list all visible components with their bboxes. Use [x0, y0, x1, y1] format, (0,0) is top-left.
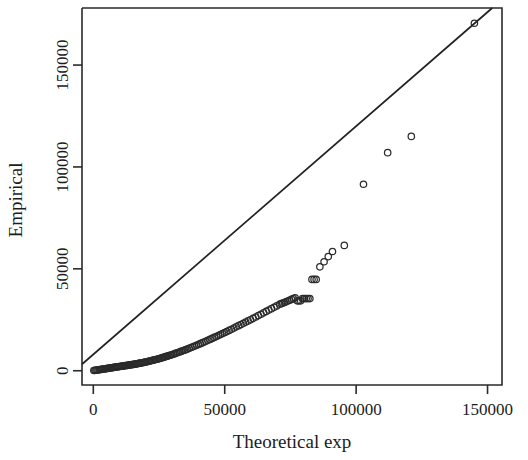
x-tick-label: 150000 [462, 400, 513, 419]
x-tick-label: 100000 [331, 400, 382, 419]
plot-background [0, 0, 528, 460]
qq-plot-figure: 050000100000150000 050000100000150000 Th… [0, 0, 528, 460]
qq-plot-canvas: 050000100000150000 050000100000150000 Th… [0, 0, 528, 460]
x-tick-label: 0 [89, 400, 98, 419]
y-axis-title: Empirical [5, 163, 26, 238]
y-tick-label: 0 [53, 366, 72, 375]
x-tick-label: 50000 [203, 400, 246, 419]
y-tick-label: 100000 [53, 141, 72, 192]
x-axis-title: Theoretical exp [233, 431, 352, 452]
y-tick-label: 50000 [53, 248, 72, 291]
y-tick-label: 150000 [53, 40, 72, 91]
